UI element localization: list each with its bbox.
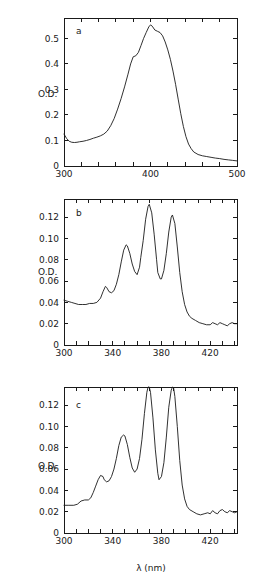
panel-c-curve [64,387,237,515]
panel-b-y-tick-labels: 00.020.040.060.080.100.12 [39,212,59,350]
panel-b-y-axis-title: O.D. [38,267,57,277]
svg-text:340: 340 [104,536,121,546]
panel-b-axes [64,199,237,345]
panel-c-ticks [64,387,237,533]
svg-text:0.08: 0.08 [39,255,59,265]
panel-b-plot: 00.020.040.060.080.100.12 300340380420 O… [0,185,261,380]
svg-text:0.5: 0.5 [45,34,59,44]
panel-a-x-tick-labels: 300400500 [55,169,245,179]
svg-text:0.4: 0.4 [45,59,60,69]
svg-text:300: 300 [55,536,72,546]
panel-c-label: c [76,400,81,410]
svg-text:380: 380 [153,536,170,546]
svg-text:0.2: 0.2 [45,110,59,120]
svg-text:420: 420 [202,348,219,358]
svg-text:300: 300 [55,348,72,358]
panel-b-x-tick-labels: 300340380420 [55,348,219,358]
svg-text:0.10: 0.10 [39,422,59,432]
panel-a-y-tick-labels: 00.10.20.30.40.5 [45,34,60,172]
panel-b-label: b [76,208,82,218]
panel-a: 00.10.20.30.40.5 300400500 O.D. a [0,0,261,190]
panel-a-plot: 00.10.20.30.40.5 300400500 O.D. a [0,0,261,190]
svg-text:0.06: 0.06 [39,276,59,286]
panel-c-x-tick-labels: 300340380420 [55,536,219,546]
svg-text:0.08: 0.08 [39,443,59,453]
panel-a-label: a [76,26,82,36]
panel-a-ticks [64,18,237,166]
svg-text:340: 340 [104,348,121,358]
svg-text:0.12: 0.12 [39,212,59,222]
svg-text:400: 400 [142,169,159,179]
svg-text:0.02: 0.02 [39,319,59,329]
panel-c: 00.020.040.060.080.100.12 300340380420 O… [0,375,261,582]
svg-text:0.04: 0.04 [39,486,59,496]
svg-text:300: 300 [55,169,72,179]
panel-b: 00.020.040.060.080.100.12 300340380420 O… [0,185,261,380]
svg-text:0.02: 0.02 [39,507,59,517]
svg-text:0.1: 0.1 [45,136,59,146]
panel-a-curve [64,25,237,161]
svg-text:380: 380 [153,348,170,358]
svg-text:0.04: 0.04 [39,298,59,308]
svg-text:0.12: 0.12 [39,400,59,410]
panel-b-curve [64,204,237,325]
x-axis-title: λ (nm) [136,563,166,573]
panel-a-y-axis-title: O.D. [38,89,57,99]
panel-a-axes [64,18,237,166]
panel-c-plot: 00.020.040.060.080.100.12 300340380420 O… [0,375,261,582]
panel-c-y-axis-title: O.D. [38,461,57,471]
svg-text:420: 420 [202,536,219,546]
svg-text:500: 500 [228,169,245,179]
spectra-figure: 00.10.20.30.40.5 300400500 O.D. a 00.020… [0,0,261,582]
panel-b-ticks [64,199,237,345]
svg-text:0.10: 0.10 [39,234,59,244]
panel-c-axes [64,387,237,533]
